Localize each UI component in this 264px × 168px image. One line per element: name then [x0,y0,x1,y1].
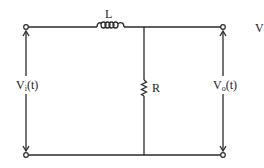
output-voltage-label: Vo(t) [213,79,237,95]
input-voltage-main: V [16,78,25,92]
clipped-label-text: V [255,21,264,35]
input-terminal-bottom [24,153,29,158]
inductor-label-text: L [105,7,112,21]
input-voltage-suffix: (t) [27,78,38,92]
resistor-symbol [142,80,147,96]
output-voltage-suffix: (t) [226,78,237,92]
input-terminal-top [24,25,29,30]
inductor-symbol [97,22,124,28]
output-terminal-bottom [221,153,226,158]
output-voltage-main: V [213,78,222,92]
resistor-label-text: R [152,81,160,95]
output-terminal-top [221,25,226,30]
inductor-label: L [105,8,112,20]
resistor-label: R [152,82,160,94]
input-voltage-label: Vi(t) [16,79,38,95]
circuit-diagram: L R Vi(t) Vo(t) V [0,0,264,168]
clipped-label: V [255,22,264,34]
